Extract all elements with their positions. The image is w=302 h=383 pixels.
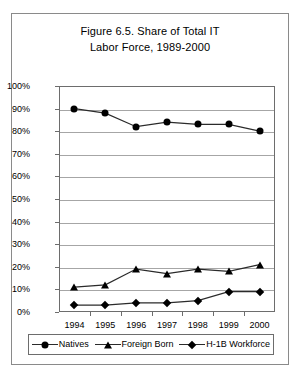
- y-axis-tick-mark: [55, 267, 59, 268]
- data-point-triangle: [225, 268, 233, 275]
- y-axis-tick-label: 10%: [0, 285, 30, 294]
- y-axis-tick-mark: [55, 154, 59, 155]
- data-point-triangle: [132, 266, 140, 273]
- legend-marker-triangle-icon: [95, 340, 121, 350]
- data-point-triangle: [163, 270, 171, 277]
- y-axis-tick-label: 0%: [0, 308, 30, 317]
- y-axis-tick-mark: [55, 289, 59, 290]
- y-axis-tick-mark: [55, 176, 59, 177]
- y-axis-tick-mark: [55, 109, 59, 110]
- y-axis-tick-mark: [55, 199, 59, 200]
- x-axis-tick-mark: [90, 312, 91, 316]
- y-axis-tick-label: 40%: [0, 218, 30, 227]
- y-axis-tick-label: 50%: [0, 195, 30, 204]
- data-point-circle: [102, 110, 109, 117]
- y-axis-tick-label: 80%: [0, 127, 30, 136]
- data-point-circle: [256, 128, 263, 135]
- y-axis-tick-label: 60%: [0, 172, 30, 181]
- chart-title: Figure 6.5. Share of Total IT Labor Forc…: [12, 23, 288, 55]
- data-point-triangle: [70, 284, 78, 291]
- legend-entry[interactable]: H-1B Workforce: [179, 340, 270, 350]
- data-point-triangle: [256, 261, 264, 268]
- y-axis-tick-mark: [55, 131, 59, 132]
- chart-title-line-2: Labor Force, 1989-2000: [12, 39, 288, 55]
- x-axis-tick-mark: [213, 312, 214, 316]
- x-axis-tick-mark: [152, 312, 153, 316]
- legend-entry[interactable]: Natives: [32, 340, 89, 350]
- y-axis-tick-mark: [55, 222, 59, 223]
- y-axis-tick-label: 100%: [0, 82, 30, 91]
- y-axis-tick-label: 70%: [0, 150, 30, 159]
- chart-title-line-1: Figure 6.5. Share of Total IT: [12, 23, 288, 39]
- x-axis-tick-label: 2000: [237, 320, 283, 330]
- x-axis-tick-mark: [182, 312, 183, 316]
- y-axis-tick-label: 90%: [0, 105, 30, 114]
- legend-entry[interactable]: Foreign Born: [95, 340, 174, 350]
- y-axis-tick-label: 20%: [0, 263, 30, 272]
- data-point-triangle: [101, 281, 109, 288]
- data-point-triangle: [194, 266, 202, 273]
- data-point-circle: [164, 119, 171, 126]
- legend-marker-diamond-icon: [179, 340, 205, 350]
- y-axis-tick-label: 30%: [0, 240, 30, 249]
- legend-marker-circle-icon: [32, 340, 58, 350]
- figure-frame: Figure 6.5. Share of Total IT Labor Forc…: [11, 13, 289, 365]
- data-point-circle: [71, 105, 78, 112]
- chart-legend: NativesForeign BornH-1B Workforce: [28, 334, 274, 355]
- x-axis-tick-mark: [121, 312, 122, 316]
- y-axis-tick-mark: [55, 244, 59, 245]
- x-axis-tick-mark: [244, 312, 245, 316]
- data-point-circle: [194, 121, 201, 128]
- data-point-circle: [225, 121, 232, 128]
- legend-label: Foreign Born: [122, 340, 174, 349]
- y-axis-tick-mark: [55, 312, 59, 313]
- legend-label: Natives: [59, 340, 89, 349]
- legend-label: H-1B Workforce: [206, 340, 270, 349]
- y-axis-tick-mark: [55, 86, 59, 87]
- series-layer: [59, 86, 275, 312]
- data-point-circle: [133, 123, 140, 130]
